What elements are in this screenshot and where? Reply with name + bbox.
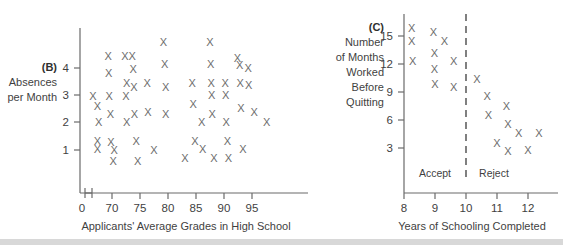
panel-c-ytick-9: 9 [387,86,393,98]
data-point-mark: X [161,58,169,70]
panel-c-ytick-15: 15 [380,30,393,42]
data-point-mark: X [503,100,511,112]
data-point-mark: X [483,90,491,102]
data-point-mark: X [130,63,138,75]
data-point-mark: X [237,102,245,114]
data-point-mark: X [441,35,449,47]
data-point-mark: X [485,109,493,121]
data-point-mark: X [431,63,439,75]
panel-b-xtick-85: 85 [190,202,203,214]
data-point-mark: X [431,78,439,90]
data-point-mark: X [190,98,198,110]
panel-b-xtick-0: 0 [79,202,85,214]
data-point-mark: X [104,50,112,62]
panel-b-data-points: XXXXXXXXXXXXXXXXXXXXXXXXXXXXXXXXXXXXXXXX… [89,36,271,167]
panel-c-xtick-9: 9 [432,202,438,214]
panel-c-ylabel-line-1: Number [345,36,384,48]
data-point-mark: X [162,108,170,120]
data-point-mark: X [450,55,458,67]
data-point-mark: X [134,155,142,167]
data-point-mark: X [144,77,152,89]
panel-b-ytick-1: 1 [63,144,69,156]
data-point-mark: X [128,50,136,62]
panel-c: (C) Number of Months Worked Before Quitt… [320,0,563,245]
data-point-mark: X [208,89,216,101]
panel-c-ylabel-line-4: Before [352,81,384,93]
panel-c-xtick-12: 12 [522,202,535,214]
data-point-mark: X [473,73,481,85]
panel-c-reject-label: Reject [479,167,509,179]
panel-b-ytick-4: 4 [63,62,70,74]
panel-b-xtick-75: 75 [134,202,147,214]
data-point-mark: X [450,81,458,93]
data-point-mark: X [431,47,439,59]
data-point-mark: X [207,58,215,70]
panel-c-xlabel: Years of Schooling Completed [398,220,546,232]
data-point-mark: X [430,26,438,38]
data-point-mark: X [263,116,271,128]
data-point-mark: X [251,106,259,118]
data-point-mark: X [224,135,232,147]
data-point-mark: X [493,137,501,149]
data-point-mark: X [409,55,417,67]
data-point-mark: X [408,35,416,47]
panel-c-ytick-6: 6 [387,114,393,126]
panel-c-x-ticks: 8 9 10 11 12 [401,193,535,214]
scatterplot-figure: (B) Absences per Month 4 3 2 1 [0,0,563,245]
panel-c-ylabel-line-5: Quitting [346,96,384,108]
data-point-mark: X [105,67,113,79]
panel-b: (B) Absences per Month 4 3 2 1 [0,0,320,245]
panel-b-canvas: (B) Absences per Month 4 3 2 1 [0,0,320,245]
data-point-mark: X [237,77,245,89]
data-point-mark: X [150,144,158,156]
panel-b-ytick-3: 3 [63,89,69,101]
data-point-mark: X [144,106,152,118]
data-point-mark: X [209,108,217,120]
data-point-mark: X [123,116,131,128]
data-point-mark: X [206,36,214,48]
data-point-mark: X [408,22,416,34]
data-point-mark: X [207,77,215,89]
data-point-mark: X [130,81,138,93]
data-point-mark: X [210,152,218,164]
panel-b-ylabel-line-1: Absences [9,76,58,88]
panel-c-accept-label: Accept [419,167,451,179]
data-point-mark: X [95,116,103,128]
data-point-mark: X [106,90,114,102]
data-point-mark: X [524,144,532,156]
panel-c-ylabel-line-2: of Months [336,51,385,63]
data-point-mark: X [198,116,206,128]
data-point-mark: X [236,59,244,71]
panel-b-ytick-2: 2 [63,116,69,128]
panel-b-axis-break [85,188,92,198]
panel-b-xtick-95: 95 [246,202,259,214]
data-point-mark: X [131,108,139,120]
data-point-mark: X [191,135,199,147]
data-point-mark: X [188,77,196,89]
page-bottom-edge [0,239,563,245]
data-point-mark: X [504,145,512,157]
panel-b-ylabel-line-2: per Month [7,91,57,103]
panel-c-data-points: XXXXXXXXXXXXXXXXXXXX [408,22,543,156]
panel-b-x-ticks: 0 70 75 80 85 90 95 [79,193,259,214]
panel-c-xtick-8: 8 [401,202,407,214]
data-point-mark: X [535,127,543,139]
data-point-mark: X [199,143,207,155]
data-point-mark: X [515,127,523,139]
data-point-mark: X [94,100,102,112]
data-point-mark: X [160,36,168,48]
data-point-mark: X [132,135,140,147]
data-point-mark: X [111,144,119,156]
panel-c-canvas: (C) Number of Months Worked Before Quitt… [320,0,563,245]
data-point-mark: X [504,118,512,130]
panel-c-xtick-11: 11 [491,202,503,214]
panel-c-ytick-3: 3 [387,142,393,154]
panel-c-ylabel-line-3: Worked [346,66,384,78]
data-point-mark: X [225,152,233,164]
panel-b-tag: (B) [42,61,58,73]
panel-b-xtick-80: 80 [162,202,175,214]
data-point-mark: X [181,152,189,164]
panel-b-y-ticks: 4 3 2 1 [63,62,80,156]
data-point-mark: X [222,89,230,101]
data-point-mark: X [109,155,117,167]
